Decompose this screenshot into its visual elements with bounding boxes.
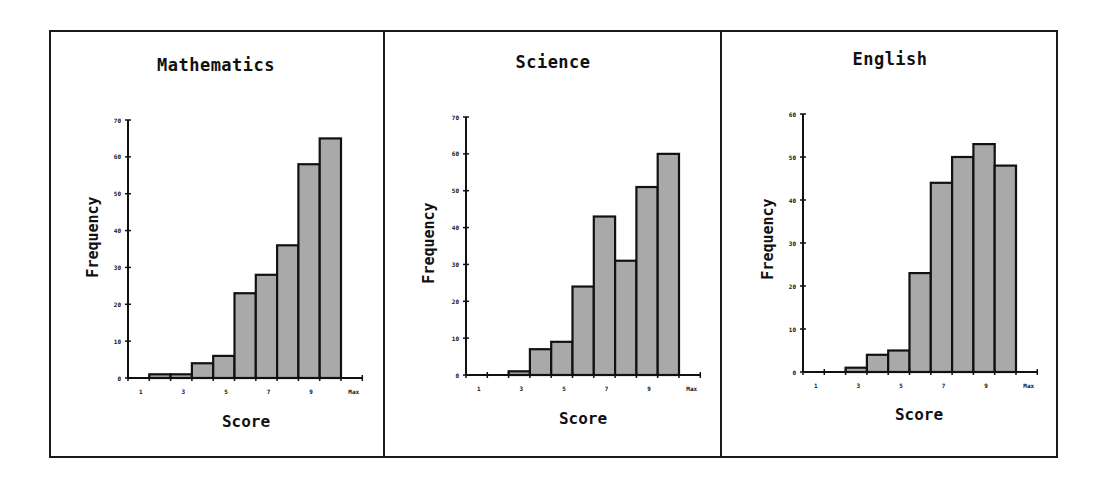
histogram-english: 010203040506013579Max	[789, 111, 1038, 390]
histogram-bar	[530, 349, 551, 375]
x-tick-label: 5	[899, 382, 903, 389]
x-tick-label: 7	[267, 388, 271, 395]
histogram-mathematics: 01020304050607013579Max	[114, 117, 363, 396]
x-tick-label: 3	[520, 385, 524, 392]
y-tick-label: 40	[114, 227, 122, 234]
y-tick-label: 30	[789, 240, 797, 247]
histogram-bar	[256, 275, 277, 378]
x-tick-label: 7	[942, 382, 946, 389]
histogram-bar	[636, 187, 657, 375]
histogram-science: 01020304050607013579Max	[452, 114, 701, 393]
histogram-bar	[192, 363, 213, 378]
histogram-bar	[952, 157, 973, 372]
y-tick-label: 20	[114, 301, 122, 308]
histogram-bar	[867, 355, 888, 372]
x-tick-label: 7	[605, 385, 609, 392]
x-tick-label: 9	[984, 382, 988, 389]
y-tick-label: 50	[114, 190, 122, 197]
histogram-bar	[973, 144, 994, 372]
y-tick-label: 20	[789, 283, 797, 290]
histogram-bar	[931, 183, 952, 372]
x-tick-label: Max	[686, 385, 697, 392]
x-tick-label: 9	[309, 388, 313, 395]
y-tick-label: 0	[455, 372, 459, 379]
y-tick-label: 70	[452, 114, 460, 121]
y-tick-label: 70	[114, 117, 122, 124]
y-tick-label: 40	[789, 197, 797, 204]
y-tick-label: 60	[114, 153, 122, 160]
x-tick-label: 1	[814, 382, 818, 389]
y-tick-label: 10	[114, 338, 122, 345]
histogram-bar	[615, 261, 636, 375]
histogram-figure: Mathematics Science English Frequency Fr…	[0, 0, 1105, 483]
histogram-bar	[658, 154, 679, 375]
histogram-bar	[235, 293, 256, 378]
y-tick-label: 20	[452, 298, 460, 305]
histogram-bar	[995, 166, 1016, 372]
histogram-plots: 01020304050607013579Max01020304050607013…	[0, 0, 1105, 483]
y-tick-label: 50	[789, 154, 797, 161]
y-tick-label: 30	[452, 261, 460, 268]
histogram-bar	[298, 164, 319, 378]
x-tick-label: 1	[477, 385, 481, 392]
x-tick-label: 5	[224, 388, 228, 395]
y-tick-label: 60	[452, 150, 460, 157]
histogram-bar	[213, 356, 234, 378]
x-tick-label: Max	[348, 388, 359, 395]
y-tick-label: 40	[452, 224, 460, 231]
histogram-bar	[910, 273, 931, 372]
x-tick-label: 1	[139, 388, 143, 395]
x-tick-label: 9	[647, 385, 651, 392]
y-tick-label: 10	[789, 326, 797, 333]
x-tick-label: 5	[562, 385, 566, 392]
y-tick-label: 30	[114, 264, 122, 271]
histogram-bar	[320, 138, 341, 378]
y-tick-label: 50	[452, 187, 460, 194]
x-tick-label: 3	[182, 388, 186, 395]
x-tick-label: Max	[1023, 382, 1034, 389]
histogram-bar	[594, 217, 615, 375]
y-tick-label: 60	[789, 111, 797, 118]
histogram-bar	[888, 351, 909, 373]
y-tick-label: 10	[452, 335, 460, 342]
y-tick-label: 0	[792, 369, 796, 376]
histogram-bar	[277, 245, 298, 378]
histogram-bar	[551, 342, 572, 375]
histogram-bar	[573, 287, 594, 375]
x-tick-label: 3	[857, 382, 861, 389]
y-tick-label: 0	[117, 375, 121, 382]
